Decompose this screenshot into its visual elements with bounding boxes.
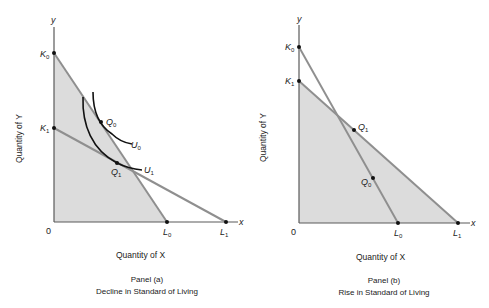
panel-a-label-u1: U1 bbox=[144, 165, 155, 176]
panel-b-x-axis-title: Quantity of X bbox=[356, 252, 405, 262]
panel-b-title: Panel (b) bbox=[368, 276, 401, 285]
panel-a-origin-label: 0 bbox=[46, 226, 51, 236]
panel-a-y-axis-label: y bbox=[50, 15, 56, 25]
panel-b-point-l1 bbox=[456, 221, 460, 225]
panel-a-point-q0 bbox=[99, 120, 103, 124]
panel-a: y x 0 K0 K1 L0 L1 Q0 Q1 U0 U1 Quantity o… bbox=[14, 15, 244, 296]
panel-b-label-l1: L1 bbox=[453, 228, 462, 239]
panel-b-label-k1: K1 bbox=[285, 76, 295, 87]
panel-a-point-l0 bbox=[165, 220, 169, 224]
panel-a-point-k0 bbox=[52, 51, 56, 55]
panel-b-point-k0 bbox=[297, 45, 301, 49]
panel-b-point-q0 bbox=[371, 176, 375, 180]
panel-b-origin-label: 0 bbox=[291, 227, 296, 237]
panel-b-label-l0: L0 bbox=[394, 228, 403, 239]
panel-a-point-q1 bbox=[115, 161, 119, 165]
panel-a-label-q0: Q0 bbox=[106, 117, 117, 128]
panel-a-x-axis-label: x bbox=[238, 217, 244, 227]
panel-b: y x 0 K0 K1 L0 L1 Q1 Q0 Quantity of Y Qu… bbox=[258, 14, 476, 297]
panel-b-point-k1 bbox=[297, 79, 301, 83]
panel-b-y-axis-label: y bbox=[296, 14, 302, 24]
panel-b-y-axis-title: Quantity of Y bbox=[258, 113, 268, 162]
panel-b-subtitle: Rise in Standard of Living bbox=[338, 288, 429, 297]
panel-a-title: Panel (a) bbox=[131, 275, 164, 284]
panel-b-x-axis-label: x bbox=[470, 218, 476, 228]
panel-a-point-k1 bbox=[52, 126, 56, 130]
panel-a-subtitle: Decline in Standard of Living bbox=[96, 287, 198, 296]
panel-a-label-l1: L1 bbox=[220, 227, 229, 238]
panel-a-y-axis-title: Quantity of Y bbox=[14, 114, 24, 163]
panel-a-label-u0: U0 bbox=[131, 140, 142, 151]
panel-b-point-l0 bbox=[396, 221, 400, 225]
panel-a-label-k1: K1 bbox=[40, 123, 50, 134]
panel-a-point-l1 bbox=[224, 220, 228, 224]
panel-b-label-q1: Q1 bbox=[358, 122, 369, 133]
budget-constraint-diagram: y x 0 K0 K1 L0 L1 Q0 Q1 U0 U1 Quantity o… bbox=[0, 0, 489, 308]
panel-b-label-k0: K0 bbox=[285, 42, 295, 53]
panel-a-x-axis-title: Quantity of X bbox=[116, 250, 165, 260]
panel-a-label-l0: L0 bbox=[163, 227, 172, 238]
panel-b-point-q1 bbox=[352, 128, 356, 132]
panel-a-label-k0: K0 bbox=[40, 49, 50, 60]
